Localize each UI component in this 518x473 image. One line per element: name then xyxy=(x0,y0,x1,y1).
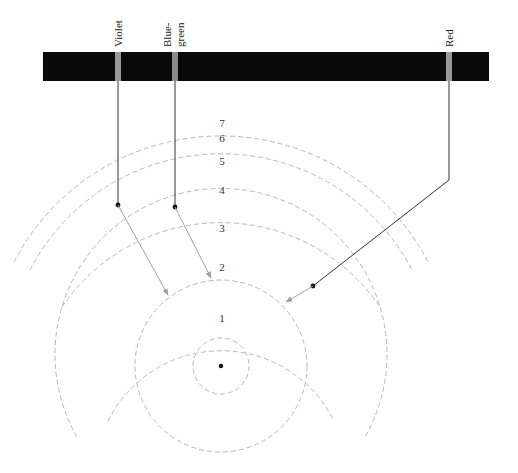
transition-red xyxy=(286,81,449,302)
orbit-label-5: 5 xyxy=(219,155,225,167)
label-green: green xyxy=(174,22,186,47)
orbit-label-6: 6 xyxy=(219,132,225,144)
orbit-3 xyxy=(108,351,334,421)
spectral-line-red xyxy=(446,52,452,81)
orbit-label-3: 3 xyxy=(219,222,225,234)
label-violet: Violet xyxy=(112,20,124,47)
transition-violet xyxy=(116,81,168,295)
spectral-line-violet xyxy=(115,52,121,81)
label-red: Red xyxy=(443,29,455,47)
transition-blue-green xyxy=(173,81,211,278)
orbit-label-4: 4 xyxy=(219,184,225,196)
orbit-label-1: 1 xyxy=(219,312,225,324)
spectral-line-blue-green xyxy=(172,52,178,81)
bohr-emission-diagram: Violet Blue- green Red 7 6 5 4 3 2 1 xyxy=(0,0,518,473)
orbit-label-7: 7 xyxy=(219,117,225,129)
orbit-label-2: 2 xyxy=(219,261,225,273)
nucleus-dot xyxy=(219,364,223,368)
label-blue: Blue- xyxy=(161,22,173,47)
orbit-6 xyxy=(30,154,412,270)
emission-spectrum-bar xyxy=(43,52,489,81)
